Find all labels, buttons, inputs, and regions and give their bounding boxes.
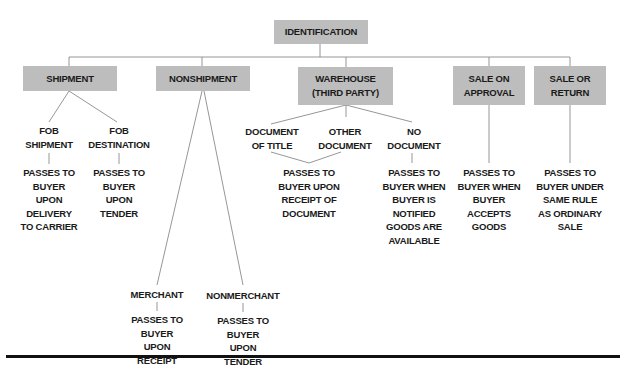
- no-document-outcome: PASSES TO BUYER WHEN BUYER IS NOTIFIED G…: [383, 166, 446, 248]
- root-node-identification: IDENTIFICATION: [274, 20, 368, 44]
- merchant-label: MERCHANT: [131, 288, 184, 302]
- category-sale-on-approval: SALE ON APPROVAL: [453, 66, 525, 105]
- category-shipment: SHIPMENT: [23, 66, 117, 91]
- no-document-label: NO DOCUMENT: [387, 125, 440, 152]
- merchant-outcome: PASSES TO BUYER UPON RECEIPT: [131, 313, 183, 367]
- sale-on-approval-outcome: PASSES TO BUYER WHEN BUYER ACCEPTS GOODS: [458, 166, 521, 234]
- other-document-label: OTHER DOCUMENT: [318, 125, 371, 152]
- fob-destination-label: FOB DESTINATION: [88, 124, 149, 151]
- document-of-title-label: DOCUMENT OF TITLE: [245, 125, 298, 152]
- fob-shipment-outcome: PASSES TO BUYER UPON DELIVERY TO CARRIER: [21, 166, 78, 234]
- fob-destination-outcome: PASSES TO BUYER UPON TENDER: [93, 166, 145, 220]
- root-label: IDENTIFICATION: [285, 25, 358, 39]
- category-nonshipment: NONSHIPMENT: [156, 66, 250, 91]
- category-label: SALE OR RETURN: [550, 72, 591, 99]
- bottom-rule-divider: [6, 355, 620, 358]
- sale-or-return-outcome: PASSES TO BUYER UNDER SAME RULE AS ORDIN…: [536, 166, 603, 234]
- category-label: NONSHIPMENT: [169, 72, 237, 86]
- category-label: WAREHOUSE (THIRD PARTY): [312, 72, 379, 99]
- identification-diagram: IDENTIFICATION SHIPMENT NONSHIPMENT WARE…: [0, 0, 627, 374]
- category-label: SHIPMENT: [46, 72, 94, 86]
- category-sale-or-return: SALE OR RETURN: [534, 66, 606, 105]
- document-outcome: PASSES TO BUYER UPON RECEIPT OF DOCUMENT: [278, 166, 339, 220]
- nonmerchant-label: NONMERCHANT: [206, 289, 279, 303]
- fob-shipment-label: FOB SHIPMENT: [25, 124, 73, 151]
- category-warehouse: WAREHOUSE (THIRD PARTY): [298, 67, 393, 105]
- nonmerchant-outcome: PASSES TO BUYER UPON TENDER: [217, 314, 269, 368]
- category-label: SALE ON APPROVAL: [464, 72, 514, 99]
